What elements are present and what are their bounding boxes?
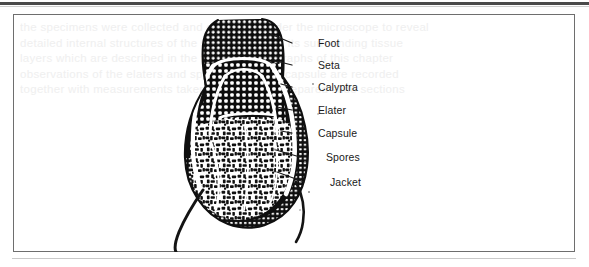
page-top-rule-thin [0, 6, 589, 7]
sporophyte-body [173, 14, 323, 252]
label-spores: Spores [326, 152, 360, 163]
label-capsule: Capsule [318, 128, 357, 139]
scanned-page: the specimens were collected and examine… [0, 0, 589, 267]
page-top-rule [0, 2, 589, 5]
label-calyptra: Calyptra [318, 82, 358, 93]
label-seta: Seta [318, 60, 340, 71]
page-bottom-rule [12, 258, 576, 259]
label-jacket: Jacket [330, 177, 361, 188]
sporophyte-diagram [13, 14, 575, 252]
sporophyte-svg [13, 14, 575, 252]
label-foot: Foot [318, 38, 339, 49]
label-elater: Elater [318, 105, 346, 116]
